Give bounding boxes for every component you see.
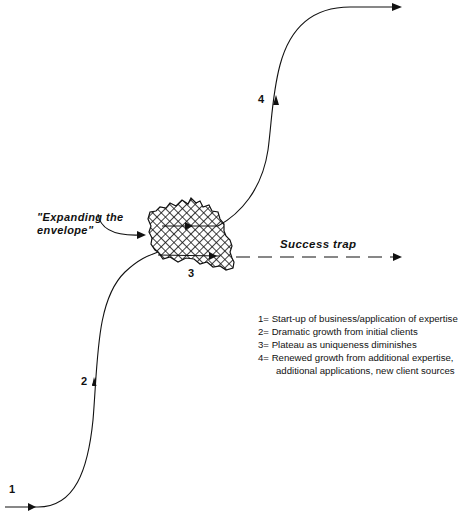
plateau-blob [148, 198, 234, 270]
expanding-line-1: "Expanding the [37, 211, 124, 224]
stage-2-label: 2 [81, 375, 87, 387]
legend-item: 4= Renewed growth from additional expert… [258, 351, 458, 364]
legend: 1= Start-up of business/application of e… [258, 312, 458, 377]
stage-1-label: 1 [9, 483, 15, 495]
end-arrow-icon [392, 3, 402, 11]
expanding-envelope-label: "Expanding the envelope" [37, 211, 124, 237]
success-trap-arrow-icon [393, 253, 402, 261]
success-trap-label: Success trap [280, 238, 356, 251]
legend-item: 1= Start-up of business/application of e… [258, 312, 458, 325]
legend-item: 3= Plateau as uniqueness diminishes [258, 338, 458, 351]
stage1-arrow-icon [28, 503, 36, 511]
expanding-arrow-head-icon [137, 231, 146, 239]
legend-item-continuation: additional applications, new client sour… [258, 364, 458, 377]
stage-4-label: 4 [258, 93, 264, 105]
renewed-growth-curve [218, 7, 398, 226]
expanding-line-2: envelope" [37, 224, 124, 237]
legend-item: 2= Dramatic growth from initial clients [258, 325, 458, 338]
stage-3-label: 3 [188, 267, 194, 279]
